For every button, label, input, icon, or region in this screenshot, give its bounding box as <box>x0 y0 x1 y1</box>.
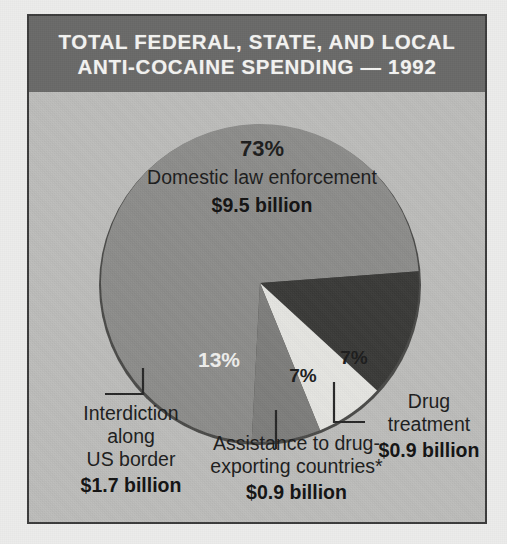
chart-title-line-1: TOTAL FEDERAL, STATE, AND LOCAL <box>58 29 455 54</box>
chart-title-banner: TOTAL FEDERAL, STATE, AND LOCAL ANTI-COC… <box>29 16 485 92</box>
pie-chart-svg <box>29 92 485 522</box>
pie-slices <box>101 124 419 442</box>
page-background: TOTAL FEDERAL, STATE, AND LOCAL ANTI-COC… <box>0 0 507 544</box>
chart-panel: 73% Domestic law enforcement $9.5 billio… <box>29 92 485 522</box>
chart-title-line-2: ANTI-COCAINE SPENDING — 1992 <box>77 54 436 79</box>
pie-chart <box>29 92 485 522</box>
chart-figure: TOTAL FEDERAL, STATE, AND LOCAL ANTI-COC… <box>27 14 487 524</box>
